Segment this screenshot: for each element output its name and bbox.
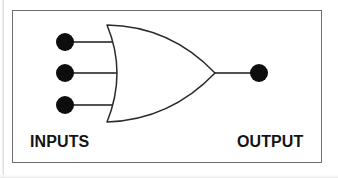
or-gate-diagram <box>0 0 338 178</box>
or-gate-body <box>107 25 215 122</box>
output-label: OUTPUT <box>237 134 303 150</box>
scan-bottom-artifact <box>0 175 338 178</box>
input-terminal-1 <box>56 33 74 51</box>
input-terminal-2 <box>56 64 74 82</box>
output-terminal-1 <box>250 64 268 82</box>
input-terminal-3 <box>56 96 74 114</box>
inputs-label: INPUTS <box>30 134 89 150</box>
logic-gate-screenshot: INPUTS OUTPUT <box>0 0 338 178</box>
